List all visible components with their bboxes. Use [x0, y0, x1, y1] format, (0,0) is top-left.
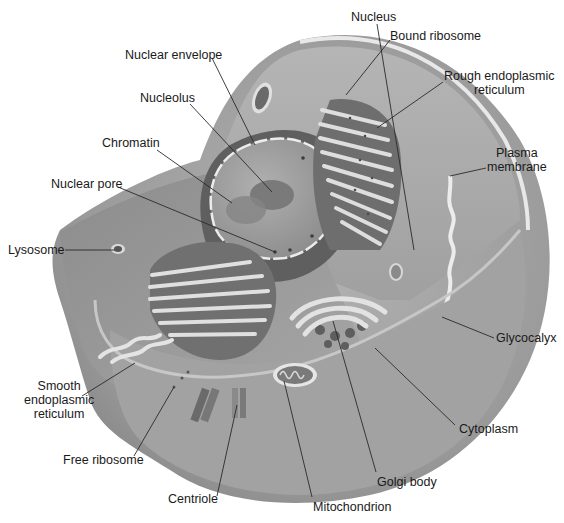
label-nucleolus: Nucleolus: [140, 91, 195, 105]
label-golgi-body: Golgi body: [377, 475, 437, 489]
label-centriole: Centriole: [168, 492, 218, 506]
label-mitochondrion: Mitochondrion: [313, 500, 392, 514]
label-chromatin: Chromatin: [102, 136, 160, 150]
label-bound-ribosome: Bound ribosome: [390, 29, 481, 43]
label-glycocalyx: Glycocalyx: [496, 331, 556, 345]
label-nuclear-envelope: Nuclear envelope: [125, 48, 222, 62]
label-free-ribosome: Free ribosome: [63, 453, 144, 467]
label-smooth-er: Smooth endoplasmic reticulum: [24, 379, 94, 421]
label-nucleus: Nucleus: [351, 10, 396, 24]
label-plasma-membrane: Plasma membrane: [487, 146, 547, 174]
label-cytoplasm: Cytoplasm: [459, 422, 518, 436]
label-rough-er: Rough endoplasmic reticulum: [444, 69, 555, 97]
rough-er-shape: [313, 99, 401, 250]
label-nuclear-pore: Nuclear pore: [51, 177, 123, 191]
vesicle: [390, 264, 402, 280]
cell-diagram: NucleusNuclear envelopeBound ribosomeRou…: [0, 0, 564, 523]
mitochondrion-bottom: [273, 363, 317, 387]
label-lysosome: Lysosome: [8, 243, 65, 257]
chromatin: [226, 196, 266, 224]
